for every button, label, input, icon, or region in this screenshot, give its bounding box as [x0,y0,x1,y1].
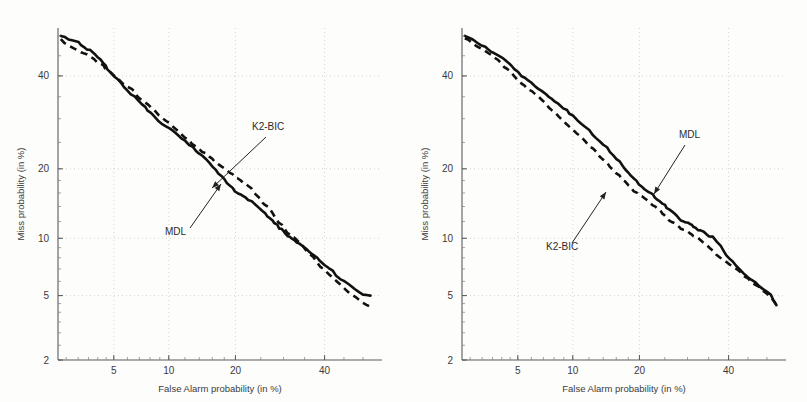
annotation-arrow-k2-bic [572,192,606,243]
det-plot-right: 510204040201052False Alarm probability (… [404,0,807,402]
x-tick-label: 10 [163,365,175,376]
y-tick-label: 2 [447,355,453,366]
x-axis-title: False Alarm probability (in %) [158,383,282,394]
y-tick-label: 40 [442,70,454,81]
y-axis-title: Miss probability (in %) [419,148,430,241]
annotation-label-k2-bic: K2-BIC [546,241,578,252]
x-axis-title: False Alarm probability (in %) [562,383,686,394]
det-plot-left: 510204040201052False Alarm probability (… [0,0,403,402]
x-tick-label: 40 [723,365,735,376]
det-plot-left-canvas: 510204040201052False Alarm probability (… [0,0,403,402]
x-tick-label: 40 [319,365,331,376]
tick-labels: 510204040201052 [38,70,331,376]
y-tick-label: 20 [442,163,454,174]
y-tick-label: 10 [442,233,454,244]
series-curve-k2-bic [465,38,777,305]
series-curve-k2-bic [61,39,371,307]
y-tick-label: 2 [43,355,49,366]
annotation-arrow-mdl [654,145,685,194]
x-tick-label: 5 [515,365,521,376]
annotation-label-mdl: MDL [679,129,701,140]
axes [58,28,382,360]
y-tick-label: 5 [43,290,49,301]
x-tick-label: 10 [567,365,579,376]
y-tick-label: 10 [38,233,50,244]
det-curves-figure: 510204040201052False Alarm probability (… [0,0,807,402]
y-axis-title: Miss probability (in %) [15,148,26,241]
x-tick-label: 5 [111,365,117,376]
annotation-arrow-mdl [190,184,221,228]
grid-lines [462,28,786,360]
annotation-label-mdl: MDL [165,226,187,237]
y-tick-label: 20 [38,163,50,174]
series-curve-mdl [61,36,371,296]
axes [462,28,786,360]
x-tick-label: 20 [634,365,646,376]
x-tick-label: 20 [230,365,242,376]
grid-lines [58,28,382,360]
annotation-label-k2-bic: K2-BIC [252,121,284,132]
y-tick-label: 5 [447,290,453,301]
det-plot-right-canvas: 510204040201052False Alarm probability (… [404,0,807,402]
y-tick-label: 40 [38,70,50,81]
